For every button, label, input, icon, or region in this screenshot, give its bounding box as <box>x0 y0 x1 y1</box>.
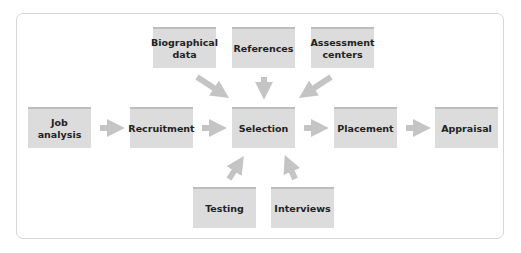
box-appraisal: Appraisal <box>435 107 498 148</box>
box-testing: Testing <box>193 187 256 228</box>
box-assessment-centers: Assessment centers <box>311 27 374 68</box>
arrow-assessment-selection <box>308 77 331 92</box>
box-job-analysis: Job analysis <box>28 107 91 148</box>
arrow-testing-selection <box>229 165 238 179</box>
arrow-interviews-selection <box>289 165 295 179</box>
box-interviews: Interviews <box>271 187 334 228</box>
box-selection: Selection <box>232 107 295 148</box>
arrow-biographical-selection <box>197 77 220 92</box>
box-recruitment: Recruitment <box>130 107 193 148</box>
box-references: References <box>232 27 295 68</box>
box-placement: Placement <box>334 107 397 148</box>
box-biographical-data: Biographical data <box>153 27 216 68</box>
